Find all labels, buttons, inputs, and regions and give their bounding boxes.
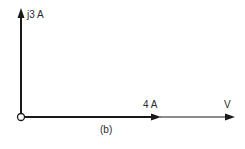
arrowhead-up-icon (18, 8, 25, 18)
arrowhead-right-icon (225, 114, 235, 121)
phasor-diagram (0, 0, 245, 149)
arrowhead-right-icon (151, 114, 161, 121)
phasor-label-j3a: j3 A (27, 10, 44, 20)
figure-caption: (b) (100, 125, 112, 135)
phasor-label-v: V (224, 100, 231, 110)
origin-circle-icon (18, 114, 25, 121)
phasor-label-4a: 4 A (143, 100, 157, 110)
